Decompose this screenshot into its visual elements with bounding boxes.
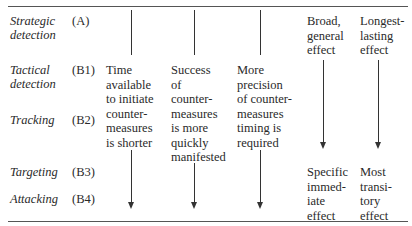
text-line: is more xyxy=(171,121,226,136)
stage-label: detection xyxy=(10,77,56,91)
stage-tactical-detection: Tactical detection xyxy=(10,63,56,91)
text-line: Time xyxy=(106,63,154,78)
text-line: precision xyxy=(237,78,292,93)
stage-attacking: Attacking xyxy=(10,192,58,206)
stage-code: (B4) xyxy=(72,192,95,206)
text-line: general xyxy=(307,29,344,44)
text-line: Specific xyxy=(307,165,348,180)
text-line: effect xyxy=(307,43,344,58)
stage-label: Targeting xyxy=(10,165,58,179)
stage-tracking: Tracking xyxy=(10,113,54,127)
text-line: counter- xyxy=(171,92,226,107)
down-arrow-icon xyxy=(260,150,261,203)
stage-label: detection xyxy=(10,28,56,42)
text-line: manifested xyxy=(171,150,226,165)
column-success: Success of counter- measures is more qui… xyxy=(171,63,226,165)
down-arrow-icon xyxy=(131,150,132,203)
text-line: transi- xyxy=(360,180,392,195)
text-line: required xyxy=(237,136,292,151)
timeline-line xyxy=(260,10,261,55)
stage-label: Strategic xyxy=(10,14,56,28)
text-line: of xyxy=(171,78,226,93)
stage-label: Tracking xyxy=(10,113,54,127)
text-line: tory xyxy=(360,194,392,209)
text-line: More xyxy=(237,63,292,78)
stage-code: (B2) xyxy=(72,113,95,127)
stage-targeting: Targeting xyxy=(10,165,58,179)
text-line: iate xyxy=(307,194,348,209)
down-arrow-icon xyxy=(378,60,379,143)
stage-strategic-detection: Strategic detection xyxy=(10,14,56,42)
stage-code: (B3) xyxy=(72,165,95,179)
text-line: lasting xyxy=(360,29,404,44)
text-line: timing is xyxy=(237,121,292,136)
effect-longest-lasting: Longest- lasting effect xyxy=(360,14,404,58)
text-line: Success xyxy=(171,63,226,78)
stage-label: Attacking xyxy=(10,192,58,206)
column-precision: More precision of counter- measures timi… xyxy=(237,63,292,150)
text-line: is shorter xyxy=(106,136,154,151)
text-line: Most xyxy=(360,165,392,180)
bottom-rule xyxy=(8,221,408,222)
stage-code: (A) xyxy=(72,14,89,28)
text-line: measures xyxy=(237,107,292,122)
text-line: Broad, xyxy=(307,14,344,29)
text-line: measures xyxy=(171,107,226,122)
text-line: counter- xyxy=(106,107,154,122)
timeline-line xyxy=(194,10,195,55)
text-line: Longest- xyxy=(360,14,404,29)
text-line: quickly xyxy=(171,136,226,151)
top-rule xyxy=(8,6,408,7)
text-line: immed- xyxy=(307,180,348,195)
text-line: measures xyxy=(106,121,154,136)
timeline-line xyxy=(131,10,132,55)
text-line: of counter- xyxy=(237,92,292,107)
down-arrow-icon xyxy=(323,60,324,143)
effect-specific-immediate: Specific immed- iate effect xyxy=(307,165,348,223)
stage-code: (B1) xyxy=(72,63,95,77)
effect-most-transitory: Most transi- tory effect xyxy=(360,165,392,223)
column-time-available: Time available to initiate counter- meas… xyxy=(106,63,154,150)
text-line: available xyxy=(106,78,154,93)
text-line: effect xyxy=(360,43,404,58)
text-line: to initiate xyxy=(106,92,154,107)
stage-label: Tactical xyxy=(10,63,56,77)
effect-broad-general: Broad, general effect xyxy=(307,14,344,58)
down-arrow-icon xyxy=(194,163,195,203)
